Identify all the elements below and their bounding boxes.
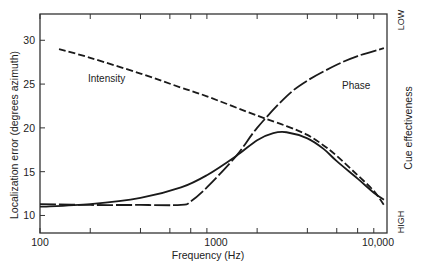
y-axis-right-label: Cue effectiveness (402, 86, 414, 169)
x-axis-label: Frequency (Hz) (172, 249, 244, 261)
axes: 1015202530 (23, 14, 387, 233)
series-localization-error (40, 132, 384, 207)
x-tick-label-100: 100 (31, 236, 49, 248)
series-group (40, 48, 384, 207)
labels-group: Frequency (Hz) Localization error (degre… (8, 9, 414, 261)
plot-frame (40, 14, 387, 233)
y-tick-label: 30 (23, 34, 35, 46)
right-axis-top-label: LOW (396, 9, 406, 30)
y-tick-label: 20 (23, 122, 35, 134)
chart: 1015202530 Frequency (Hz) Localization e… (0, 0, 425, 270)
series-label-phase: Phase (342, 80, 371, 91)
x-tick-label-10000: 10,000 (362, 236, 394, 248)
right-axis-bottom-label: HIGH (396, 211, 406, 234)
y-tick-label: 25 (23, 78, 35, 90)
chart-svg: 1015202530 Frequency (Hz) Localization e… (0, 0, 425, 270)
y-tick-label: 10 (23, 209, 35, 221)
x-tick-label-1000: 1000 (204, 236, 228, 248)
y-axis-label: Localization error (degrees azimuth) (8, 51, 20, 219)
series-phase (40, 48, 384, 205)
y-tick-label: 15 (23, 166, 35, 178)
series-label-intensity: Intensity (88, 73, 125, 84)
